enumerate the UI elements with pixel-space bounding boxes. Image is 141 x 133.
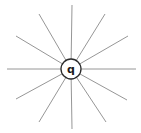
field-line xyxy=(80,36,128,64)
point-charge-diagram: q xyxy=(0,0,141,133)
field-line xyxy=(39,14,66,60)
field-line xyxy=(71,79,72,129)
charge-label: q xyxy=(67,63,75,76)
field-line xyxy=(80,74,127,100)
field-line xyxy=(16,36,62,64)
field-line xyxy=(71,5,72,59)
field-line xyxy=(76,14,105,60)
field-line xyxy=(77,77,106,122)
